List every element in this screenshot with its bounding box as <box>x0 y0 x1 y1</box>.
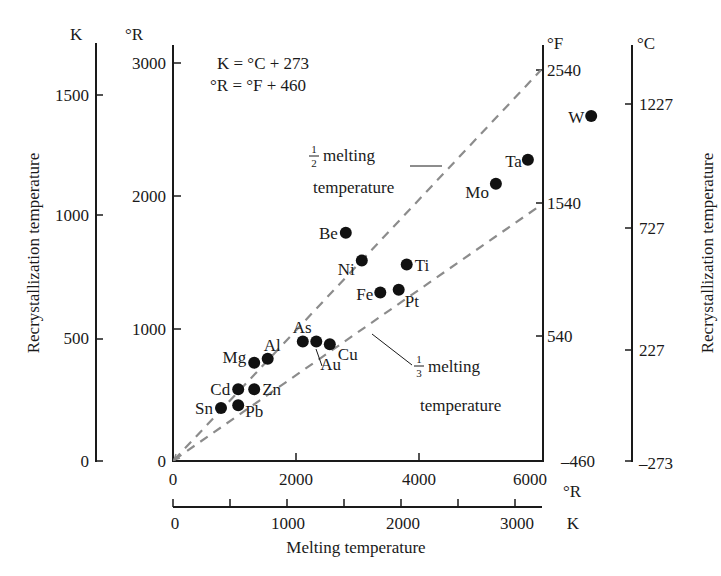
y-axis-title-left: Recrystallization temperature <box>24 153 43 354</box>
tick-xk-3000: 3000 <box>500 514 534 533</box>
unit-label-k-bottom: K <box>567 514 580 533</box>
data-point-ta <box>522 154 534 166</box>
data-point-mg <box>248 357 260 369</box>
tick-r-2000: 2000 <box>132 187 166 206</box>
svg-text:3: 3 <box>416 367 422 379</box>
data-point-fe <box>374 287 386 299</box>
tick-f-540: 540 <box>547 327 573 346</box>
tick-xr-6000: 6000 <box>513 470 547 489</box>
tick-xk-0: 0 <box>171 514 180 533</box>
recrystallization-chart: K 0 500 1000 1500 Recrystallization temp… <box>0 0 721 576</box>
tick-r-1000: 1000 <box>132 320 166 339</box>
data-point-pt <box>393 284 405 296</box>
formula-kelvin: K = °C + 273 <box>217 54 309 73</box>
svg-text:1: 1 <box>416 353 422 365</box>
tick-xr-2000: 2000 <box>279 470 313 489</box>
svg-text:1: 1 <box>311 143 317 155</box>
point-label-cu: Cu <box>338 345 358 364</box>
tick-k-0: 0 <box>81 452 90 471</box>
third-melting-line <box>174 205 541 460</box>
data-point-au <box>310 336 322 348</box>
y-axis-title-right: Recrystallization temperature <box>698 153 717 354</box>
point-label-be: Be <box>319 224 338 243</box>
tick-f-neg460: –460 <box>560 452 595 471</box>
point-label-mg: Mg <box>223 348 247 367</box>
unit-label-f-right: °F <box>547 34 563 53</box>
tick-xr-0: 0 <box>169 470 178 489</box>
half-melting-annotation: 1 2 melting temperature <box>309 143 442 197</box>
tick-r-0: 0 <box>158 452 167 471</box>
svg-text:temperature: temperature <box>420 396 501 415</box>
unit-label-r-bottom: °R <box>563 482 582 501</box>
point-label-al: Al <box>264 336 281 355</box>
tick-c-neg273: –273 <box>638 454 673 473</box>
tick-xk-1000: 1000 <box>271 514 305 533</box>
data-point-cd <box>232 383 244 395</box>
point-label-pt: Pt <box>405 292 419 311</box>
point-label-w: W <box>568 108 585 127</box>
data-point-mo <box>490 178 502 190</box>
data-point-ti <box>401 259 413 271</box>
tick-r-3000: 3000 <box>132 54 166 73</box>
data-point-as <box>297 336 309 348</box>
tick-f-2540: 2540 <box>547 61 581 80</box>
svg-text:2: 2 <box>311 157 317 169</box>
tick-xk-2000: 2000 <box>386 514 420 533</box>
unit-label-c-right: °C <box>637 34 655 53</box>
data-point-pb <box>232 399 244 411</box>
point-label-pb: Pb <box>245 402 263 421</box>
y-axis-celsius-right: °C 1227 727 227 –273 <box>625 34 674 473</box>
tick-c-727: 727 <box>639 219 665 238</box>
point-label-cd: Cd <box>210 380 230 399</box>
third-melting-annotation: 1 3 melting temperature <box>372 334 501 415</box>
unit-label-r-left: °R <box>125 25 144 44</box>
tick-c-1227: 1227 <box>639 95 674 114</box>
tick-f-1540: 1540 <box>547 194 581 213</box>
tick-k-500: 500 <box>64 329 90 348</box>
y-axis-fahrenheit-right: °F 2540 1540 540 –460 <box>536 34 595 471</box>
unit-label-k-left: K <box>70 25 83 44</box>
svg-text:melting: melting <box>428 357 480 376</box>
tick-c-227: 227 <box>639 341 665 360</box>
tick-k-1500: 1500 <box>55 86 89 105</box>
x-axis-kelvin: 0 1000 2000 3000 K <box>171 499 580 533</box>
x-axis-title: Melting temperature <box>286 538 425 557</box>
svg-text:melting: melting <box>323 146 375 165</box>
data-point-w <box>585 110 597 122</box>
point-label-mo: Mo <box>465 183 489 202</box>
svg-text:temperature: temperature <box>313 178 394 197</box>
point-label-ti: Ti <box>415 256 430 275</box>
data-point-be <box>340 227 352 239</box>
point-label-sn: Sn <box>195 399 213 418</box>
tick-xr-4000: 4000 <box>402 470 436 489</box>
y-axis-kelvin-left: K 0 500 1000 1500 <box>55 25 103 471</box>
point-label-ta: Ta <box>505 152 522 171</box>
tick-k-1000: 1000 <box>55 206 89 225</box>
point-label-fe: Fe <box>356 285 373 304</box>
data-point-cu <box>324 338 336 350</box>
data-point-ni <box>356 255 368 267</box>
point-label-zn: Zn <box>262 380 281 399</box>
data-point-sn <box>215 402 227 414</box>
data-point-zn <box>248 383 260 395</box>
point-label-ni: Ni <box>338 260 355 279</box>
point-label-as: As <box>293 318 312 337</box>
formula-rankine: °R = °F + 460 <box>210 76 306 95</box>
